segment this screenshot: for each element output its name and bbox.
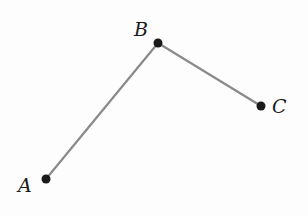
point-c [257, 102, 266, 111]
geometry-diagram: A B C [0, 0, 308, 216]
segment-ab [46, 43, 158, 179]
point-a [42, 175, 51, 184]
label-c: C [272, 95, 287, 117]
segment-bc [158, 43, 261, 106]
label-a: A [16, 174, 32, 196]
point-b [154, 39, 163, 48]
label-b: B [133, 18, 148, 40]
diagram-svg: A B C [0, 0, 308, 216]
